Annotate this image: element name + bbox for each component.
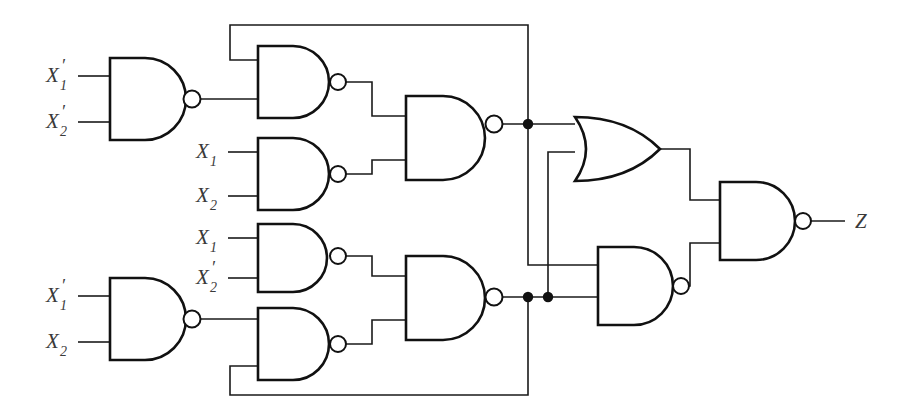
nand-gate-merge-upper[interactable] [406,96,503,180]
label-base: X [45,329,60,353]
inverter-bubble [184,311,201,328]
inverter-bubble [330,248,346,264]
wire-g4-out-to-g8 [345,256,406,276]
label-base: X [195,183,210,207]
label-subscript: 2 [210,198,217,213]
inverter-bubble [486,116,503,133]
nand-gate-merge-lower[interactable] [406,256,503,340]
label-subscript: 1 [60,78,67,93]
label-g6-in1: X 1 ′ [45,276,67,313]
inverter-bubble [330,166,346,182]
wire-g10-out-to-output-nand [687,243,720,286]
label-g3-in1: X 1 [195,139,217,169]
label-g1-in1: X 1 ′ [45,56,67,93]
inverter-bubble [184,91,201,108]
inverter-bubble [330,74,346,90]
wire-lower-node-to-or [548,152,575,297]
label-base: X [195,225,210,249]
label-prime: ′ [61,56,66,76]
label-prime: ′ [61,102,66,122]
wire-g7-out-to-g8 [345,320,406,344]
label-prime: ′ [211,258,216,278]
junction-dot-upper [523,119,533,129]
label-prime: ′ [61,276,66,296]
logic-circuit-diagram: X 1 ′ X 2 ′ X 1 X 2 X 1 X 2 ′ X 1 ′ X 2 [0,0,915,419]
nand-gate-x1-x2prime[interactable] [258,224,346,292]
nand-gate-top-left[interactable] [110,58,201,140]
wire-g2-out-to-g5 [345,82,406,116]
inverter-bubble [486,289,503,306]
label-subscript: 2 [60,124,67,139]
nand-gate-output[interactable] [720,182,811,260]
label-base: X [45,109,60,133]
wire-g3-out-to-g5 [345,160,406,174]
inverter-bubble [330,336,346,352]
label-base: X [45,63,60,87]
label-subscript: 2 [210,280,217,295]
nand-gate-upper-feedback[interactable] [258,46,346,118]
nand-gate-lower-right[interactable] [598,247,689,325]
label-base: X [45,283,60,307]
wire-or-out-to-output-nand [660,149,720,200]
nand-gate-x1-x2[interactable] [258,138,346,210]
junction-dot-lower-left [523,292,533,302]
label-base: Z [855,209,867,233]
label-subscript: 1 [210,154,217,169]
label-g6-in2: X 2 [45,329,67,359]
label-g4-in1: X 1 [195,225,217,255]
junction-dot-lower-right [543,292,553,302]
or-gate[interactable] [575,117,660,181]
nand-gate-bottom-left[interactable] [110,278,201,360]
nand-gate-lower-feedback[interactable] [258,308,346,380]
label-g4-in2: X 2 ′ [195,258,217,295]
label-g3-in2: X 2 [195,183,217,213]
label-output-z: Z [855,209,867,233]
label-g1-in2: X 2 ′ [45,102,67,139]
label-subscript: 1 [60,298,67,313]
label-subscript: 1 [210,240,217,255]
inverter-bubble [673,278,689,294]
label-subscript: 2 [60,344,67,359]
label-base: X [195,265,210,289]
label-base: X [195,139,210,163]
inverter-bubble [795,213,811,229]
